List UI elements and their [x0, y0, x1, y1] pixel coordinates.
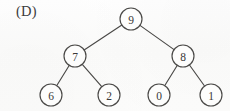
node-label-2: 2 — [106, 90, 112, 102]
binary-tree-graphic: 9786201 — [0, 0, 230, 111]
tree-node-1: 1 — [200, 84, 222, 106]
tree-node-7: 7 — [64, 45, 86, 67]
node-label-1: 1 — [208, 90, 214, 102]
tree-node-8: 8 — [172, 45, 194, 67]
tree-node-6: 6 — [40, 84, 62, 106]
node-label-7: 7 — [72, 51, 78, 63]
tree-node-2: 2 — [98, 84, 120, 106]
tree-edge-8-0 — [165, 66, 177, 86]
node-label-8: 8 — [180, 51, 186, 63]
node-label-6: 6 — [48, 90, 54, 102]
tree-edge-7-6 — [57, 66, 69, 86]
tree-edge-9-7 — [85, 25, 122, 49]
tree-node-0: 0 — [148, 84, 170, 106]
figure-container: (D) 9786201 — [0, 0, 230, 111]
nodes-group: 9786201 — [40, 8, 222, 106]
tree-edge-7-2 — [82, 65, 101, 87]
node-label-0: 0 — [156, 90, 162, 102]
tree-edge-8-1 — [190, 65, 205, 85]
tree-edge-9-8 — [140, 26, 173, 50]
tree-node-9: 9 — [120, 8, 142, 30]
node-label-9: 9 — [128, 14, 134, 26]
